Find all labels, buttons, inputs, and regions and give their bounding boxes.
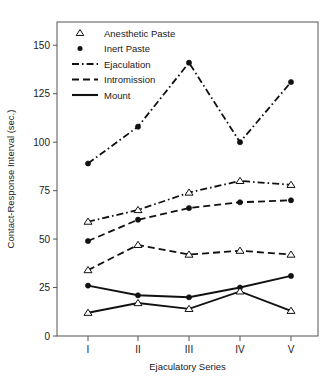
data-point-circle — [186, 60, 191, 65]
legend-label: Inert Paste — [104, 43, 150, 54]
y-tick-label: 0 — [44, 331, 50, 342]
legend-marker-triangle — [76, 30, 84, 36]
data-point-circle — [237, 200, 242, 205]
x-tick-label: V — [288, 344, 295, 355]
data-point-circle — [237, 140, 242, 145]
y-tick-label: 25 — [39, 282, 51, 293]
chart-figure: 0255075100125150IIIIIIIVVEjaculatory Ser… — [0, 0, 331, 386]
data-point-triangle — [236, 177, 244, 183]
y-tick-label: 125 — [33, 88, 50, 99]
data-point-circle — [85, 238, 90, 243]
x-axis-title: Ejaculatory Series — [149, 361, 226, 372]
plot-frame — [57, 22, 318, 336]
y-axis-title: Contact-Response Interval (sec.) — [5, 110, 16, 249]
data-point-circle — [186, 295, 191, 300]
chart-canvas: 0255075100125150IIIIIIIVVEjaculatory Ser… — [0, 0, 331, 386]
data-point-circle — [85, 161, 90, 166]
x-tick-label: II — [135, 344, 141, 355]
data-point-circle — [288, 79, 293, 84]
legend-label: Mount — [104, 90, 131, 101]
series-4 — [85, 273, 293, 300]
y-tick-label: 100 — [33, 137, 50, 148]
legend-label: Anesthetic Paste — [104, 28, 175, 39]
chart-legend: Anesthetic PasteInert PasteEjaculationIn… — [72, 28, 175, 101]
data-point-circle — [135, 217, 140, 222]
x-tick-label: III — [185, 344, 193, 355]
legend-label: Ejaculation — [104, 59, 150, 70]
y-tick-label: 150 — [33, 40, 50, 51]
data-point-circle — [186, 205, 191, 210]
x-tick-label: I — [87, 344, 90, 355]
y-tick-label: 75 — [39, 185, 51, 196]
y-tick-label: 50 — [39, 234, 51, 245]
data-point-circle — [288, 198, 293, 203]
data-point-triangle — [287, 251, 295, 257]
series-2 — [85, 198, 293, 244]
series-line — [88, 276, 291, 297]
legend-label: Intromission — [104, 74, 155, 85]
series-5 — [84, 288, 295, 316]
data-point-circle — [85, 283, 90, 288]
data-point-circle — [135, 124, 140, 129]
data-point-triangle — [134, 241, 142, 247]
data-point-circle — [288, 273, 293, 278]
legend-marker-circle — [78, 46, 83, 51]
series-3 — [84, 241, 295, 272]
data-point-circle — [135, 293, 140, 298]
x-tick-label: IV — [235, 344, 245, 355]
